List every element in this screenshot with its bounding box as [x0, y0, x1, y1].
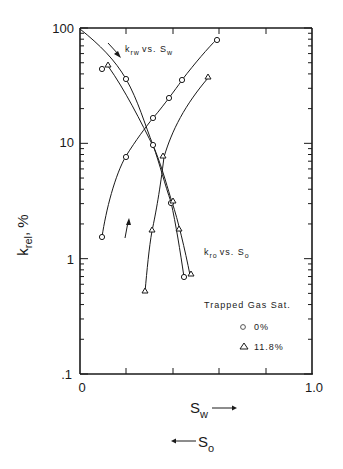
y-tick-10: 10 [60, 135, 74, 150]
up-arrow-icon [125, 218, 131, 238]
y-axis-title: krel, % [14, 214, 34, 255]
y-tick-0-1: .1 [61, 367, 72, 382]
plot-frame [80, 28, 313, 374]
kro-0pct-curve [80, 29, 184, 277]
legend-label-0: 0% [254, 322, 269, 332]
kro-annotation: krovs. So [204, 247, 250, 259]
svg-text:Sw: Sw [190, 399, 208, 420]
svg-text:So: So [198, 433, 214, 454]
markers-triangle-11.8pct [105, 62, 211, 293]
relative-permeability-chart: 100 10 1 .1 0 1.0 [0, 0, 343, 469]
legend: Trapped Gas Sat. 0% 11.8% [204, 300, 291, 352]
krw-11.8pct-curve [145, 78, 208, 292]
legend-label-11.8: 11.8% [254, 342, 284, 352]
y-axis-ticks [80, 28, 312, 374]
left-arrow-icon [171, 439, 176, 444]
krw-arrow-icon [108, 43, 121, 58]
legend-title: Trapped Gas Sat. [204, 300, 291, 310]
kro-11.8pct-curve [108, 66, 190, 275]
x-axis-title-sw: Sw [190, 399, 237, 420]
x-axis-title-so: So [171, 433, 214, 454]
legend-circle-icon [241, 325, 246, 330]
right-arrow-icon [232, 406, 237, 411]
x-tick-1: 1.0 [305, 380, 323, 395]
y-tick-1: 1 [67, 252, 74, 267]
legend-triangle-icon [240, 343, 248, 349]
x-axis-ticks [126, 28, 266, 374]
x-tick-0: 0 [78, 380, 85, 395]
y-tick-100: 100 [52, 21, 74, 36]
krw-annotation: krwvs. Sw [125, 44, 173, 56]
